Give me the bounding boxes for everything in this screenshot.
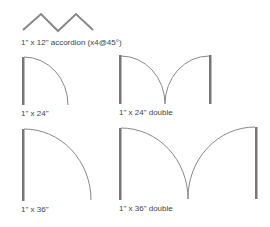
door-24-label: 1" x 24" [21,109,48,119]
door-36-symbol[interactable] [22,129,91,201]
door-36-double-right-arc [188,127,255,199]
door-36-double-symbol[interactable] [119,127,258,200]
door-24-double-right-jamb [209,55,212,104]
door-24-double-left-arc [121,56,165,104]
door-36-label: 1" x 36" [21,205,48,215]
accordion-door-symbol[interactable] [23,14,93,31]
door-24-swing-arc [24,57,68,105]
door-24-double-symbol[interactable] [119,55,212,104]
door-36-double-right-jamb [255,127,258,199]
door-36-swing-arc [24,129,91,200]
door-36-jamb [22,129,25,201]
accordion-label: 1" x 12" accordion (x4@45°) [21,38,122,48]
door-24-double-right-arc [165,56,209,104]
door-24-double-left-jamb [119,55,122,104]
door-36-double-label: 1" x 36" double [119,204,173,214]
door-36-double-left-arc [121,128,188,199]
door-24-double-label: 1" x 24" double [119,108,173,118]
door-24-jamb [22,57,25,105]
door-24-symbol[interactable] [22,57,68,105]
door-36-double-left-jamb [119,128,122,200]
